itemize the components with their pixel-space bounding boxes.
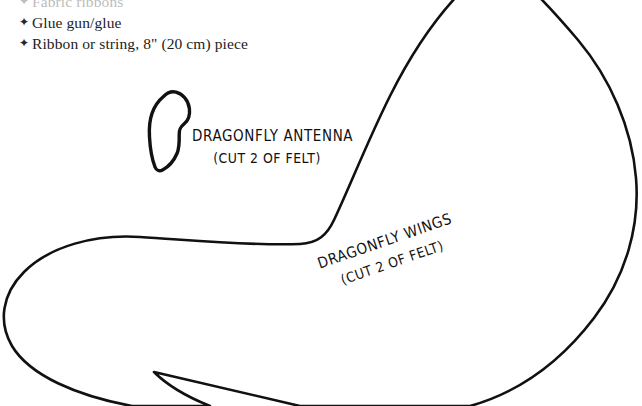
dragonfly-wings-outline xyxy=(4,0,637,406)
pattern-outline-canvas xyxy=(0,0,642,406)
antenna-label-title: DRAGONFLY ANTENNA xyxy=(192,126,342,144)
antenna-label-subtitle: (CUT 2 OF FELT) xyxy=(192,150,342,167)
dragonfly-antenna-label: DRAGONFLY ANTENNA (CUT 2 OF FELT) xyxy=(192,126,342,165)
pattern-sheet-page: ✦ Fabric ribbons ✦ Glue gun/glue ✦ Ribbo… xyxy=(0,0,642,406)
dragonfly-antenna-outline xyxy=(149,92,189,171)
